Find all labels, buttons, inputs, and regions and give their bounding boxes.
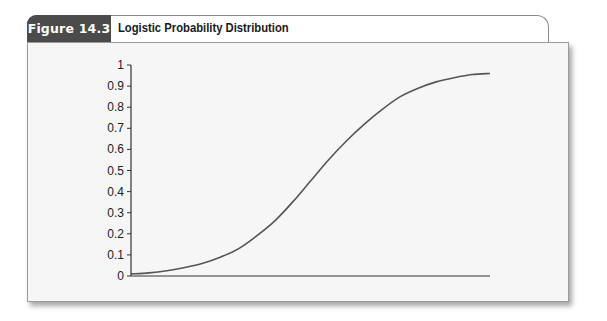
- y-tick-label: 0.7: [107, 121, 124, 135]
- y-tick-label: 0.1: [107, 248, 124, 262]
- y-tick-label: 0.6: [107, 142, 124, 156]
- y-tick-label: 0.9: [107, 79, 124, 93]
- y-tick-label: 0.8: [107, 100, 124, 114]
- y-tick-label: 0.3: [107, 206, 124, 220]
- y-tick-label: 0.2: [107, 227, 124, 241]
- chart-plot: 00.10.20.30.40.50.60.70.80.91: [0, 0, 607, 321]
- y-tick-label: 0: [117, 269, 124, 283]
- y-tick-label: 0.5: [107, 164, 124, 178]
- y-tick-label: 0.4: [107, 185, 124, 199]
- y-axis: 00.10.20.30.40.50.60.70.80.91: [107, 58, 131, 283]
- y-tick-label: 1: [117, 58, 124, 72]
- logistic-curve: [131, 73, 490, 273]
